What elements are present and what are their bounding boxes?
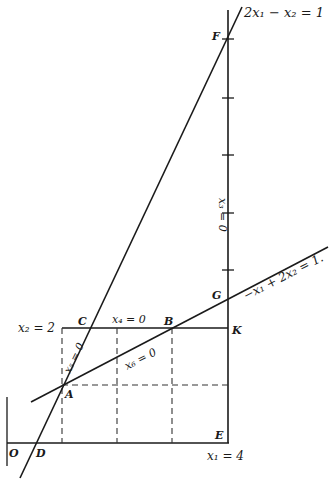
point-c-label: C: [78, 315, 87, 328]
point-g-label: G: [212, 289, 221, 302]
steep-constraint-line: [20, 7, 242, 478]
point-b-label: B: [163, 315, 173, 328]
x2-bound-label: x₂ = 2: [18, 321, 55, 335]
point-k-label: K: [231, 324, 242, 337]
dashed-grid: [62, 328, 228, 443]
point-f-label: F: [211, 30, 221, 43]
lp-diagram: 2x₁ − x₂ = 1 −x₁ + 2x₂ = 1. x₂ = 2 x₁ = …: [0, 0, 332, 484]
x6-zero-label: x₆ = 0: [122, 346, 158, 373]
x4-zero-label: x₄ = 0: [112, 313, 146, 326]
x1-bound-label: x₁ = 4: [207, 449, 244, 463]
point-o-label: O: [9, 447, 19, 460]
x5-zero-label: x₅ = 0: [61, 340, 86, 375]
point-e-label: E: [214, 429, 224, 442]
steep-line-label: 2x₁ − x₂ = 1: [243, 5, 324, 20]
point-a-label: A: [64, 388, 74, 401]
point-d-label: D: [35, 447, 46, 460]
shallow-line-label: −x₁ + 2x₂ = 1.: [241, 250, 325, 302]
x3-zero-label-text: x₃ = 0: [216, 198, 229, 232]
